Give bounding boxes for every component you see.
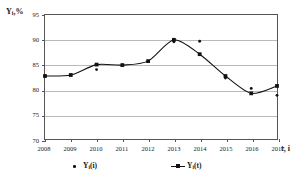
y-tick-label: 95 <box>23 11 39 18</box>
legend-label-suffix-1: (t) <box>194 161 202 170</box>
plot-area <box>44 14 278 140</box>
x-tickmark <box>97 139 98 142</box>
x-tick-label: 2008 <box>31 145 57 152</box>
chart-legend: Yi(i) Yi(t) <box>44 160 278 174</box>
legend-label-suffix-0: (i) <box>90 161 97 170</box>
y-tick-label: 70 <box>23 137 39 144</box>
y-tick-label: 75 <box>23 111 39 118</box>
x-tickmark <box>71 139 72 142</box>
y-axis-title-suffix: ,% <box>13 7 23 16</box>
legend-entry-yt: Yi(t) <box>170 161 201 172</box>
data-point <box>198 40 201 43</box>
data-point <box>120 63 124 67</box>
x-tick-label: 2013 <box>161 145 187 152</box>
x-tick-label: 2017 <box>265 145 291 152</box>
data-point <box>249 91 253 95</box>
data-point <box>95 68 98 71</box>
y-tick-label: 90 <box>23 36 39 43</box>
x-tick-label: 2010 <box>83 145 109 152</box>
data-point <box>172 38 176 42</box>
x-tickmark <box>123 139 124 142</box>
x-tickmark <box>149 139 150 142</box>
data-point <box>250 87 253 90</box>
data-point <box>69 73 73 77</box>
x-tickmark <box>175 139 176 142</box>
y-tick-label: 80 <box>23 86 39 93</box>
chart-container: Yi,% t, i 959085807570 20082009201020112… <box>0 0 300 179</box>
data-point <box>275 84 279 88</box>
x-tick-label: 2012 <box>135 145 161 152</box>
data-point <box>95 63 99 67</box>
x-tick-label: 2009 <box>57 145 83 152</box>
x-tickmark <box>227 139 228 142</box>
x-tick-label: 2015 <box>213 145 239 152</box>
series-layer <box>45 15 277 139</box>
data-point <box>43 74 47 78</box>
x-tickmark <box>253 139 254 142</box>
data-point <box>276 94 279 97</box>
legend-line-marker-icon <box>170 162 186 170</box>
x-tick-label: 2014 <box>187 145 213 152</box>
legend-entry-yi: Yi(i) <box>66 161 97 172</box>
data-point <box>146 59 150 63</box>
series-line-1 <box>45 40 277 94</box>
legend-dot-marker-icon <box>66 162 82 170</box>
y-tick-label: 85 <box>23 61 39 68</box>
data-point <box>198 52 202 56</box>
x-tick-label: 2011 <box>109 145 135 152</box>
x-tickmark <box>279 139 280 142</box>
data-point <box>224 74 228 78</box>
x-tickmark <box>45 139 46 142</box>
x-tick-label: 2016 <box>239 145 265 152</box>
x-tickmark <box>201 139 202 142</box>
y-axis-title: Yi,% <box>6 7 23 16</box>
